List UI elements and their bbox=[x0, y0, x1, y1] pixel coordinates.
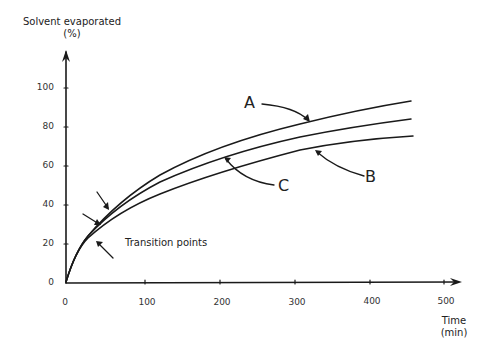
y-tick-label: 20 bbox=[32, 238, 54, 248]
x-tick-label: 0 bbox=[50, 297, 80, 307]
y-tick-label: 60 bbox=[32, 160, 54, 170]
y-tick-label: 80 bbox=[32, 121, 54, 131]
y-axis-title-line1: Solvent evaporated bbox=[12, 16, 132, 28]
curve-label-a: A bbox=[244, 93, 255, 112]
curve-label-c: C bbox=[278, 176, 289, 195]
x-tick-label: 300 bbox=[282, 297, 312, 307]
x-axis-title-line2: (min) bbox=[434, 327, 474, 339]
x-tick-label: 200 bbox=[207, 297, 237, 307]
curve-a bbox=[66, 101, 411, 282]
y-tick-label: 40 bbox=[32, 199, 54, 209]
x-tick-label: 100 bbox=[132, 297, 162, 307]
x-tick-label: 500 bbox=[431, 296, 461, 306]
curve-c bbox=[66, 119, 411, 282]
x-tick-label: 400 bbox=[357, 296, 387, 306]
arrowhead-icon bbox=[224, 157, 231, 163]
arrowhead-icon bbox=[103, 202, 109, 210]
curve-label-b: B bbox=[365, 167, 376, 186]
y-tick-label: 0 bbox=[32, 277, 54, 287]
x-axis-title-line1: Time bbox=[434, 315, 474, 327]
arrow-to-curve-b bbox=[317, 152, 364, 176]
x-axis bbox=[66, 282, 458, 283]
arrow-to-curve-a bbox=[262, 104, 308, 120]
y-tick-label: 100 bbox=[32, 82, 54, 92]
x-axis-title: Time (min) bbox=[434, 315, 474, 339]
arrowhead-icon bbox=[303, 114, 310, 122]
y-axis-title-line2: (%) bbox=[12, 28, 132, 40]
y-axis-title: Solvent evaporated (%) bbox=[12, 16, 132, 40]
arrow-to-curve-c bbox=[226, 159, 274, 185]
transition-arrow-3 bbox=[98, 243, 113, 258]
transition-points-label: Transition points bbox=[125, 237, 207, 249]
